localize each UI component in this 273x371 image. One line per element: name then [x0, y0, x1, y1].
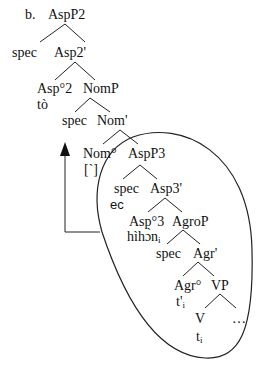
node-spec-1: spec: [12, 46, 37, 60]
lexical-to: tò: [37, 98, 48, 112]
node-AgroP: AgroP: [172, 215, 209, 229]
node-Asp3-head: Asp°3: [129, 215, 164, 229]
node-V: V: [195, 312, 205, 326]
empty-category-ec: ec: [110, 198, 124, 212]
lexical-hihon: hìhɔ̀ni: [127, 230, 161, 247]
node-AspP3: AspP3: [128, 147, 165, 161]
trace-index: i: [200, 335, 203, 345]
trace-prime: t'i: [176, 295, 185, 312]
node-ellipsis: …: [232, 312, 246, 326]
node-Agr-head: Agr°: [174, 279, 201, 293]
node-Asp3-bar: Asp3': [150, 182, 182, 196]
node-Nom-bar: Nom': [97, 114, 128, 128]
trace: ti: [196, 330, 202, 347]
node-NomP: NomP: [83, 82, 119, 96]
node-Nom-head: Nom°: [83, 147, 117, 161]
node-Asp2-bar: Asp2': [54, 46, 86, 60]
tone-marker: [`]: [84, 163, 98, 177]
node-spec-4: spec: [156, 247, 181, 261]
hihon-index: i: [158, 235, 161, 245]
node-spec-2: spec: [62, 114, 87, 128]
node-VP: VP: [211, 279, 229, 293]
hihon-text: hìhɔ̀n: [127, 229, 158, 244]
node-Agr-bar: Agr': [193, 247, 217, 261]
example-label: b.: [25, 8, 36, 22]
node-AspP2: AspP2: [48, 8, 85, 22]
tprime-index: i: [182, 300, 185, 310]
node-spec-3: spec: [114, 182, 139, 196]
node-Asp2-head: Asp°2: [37, 82, 72, 96]
